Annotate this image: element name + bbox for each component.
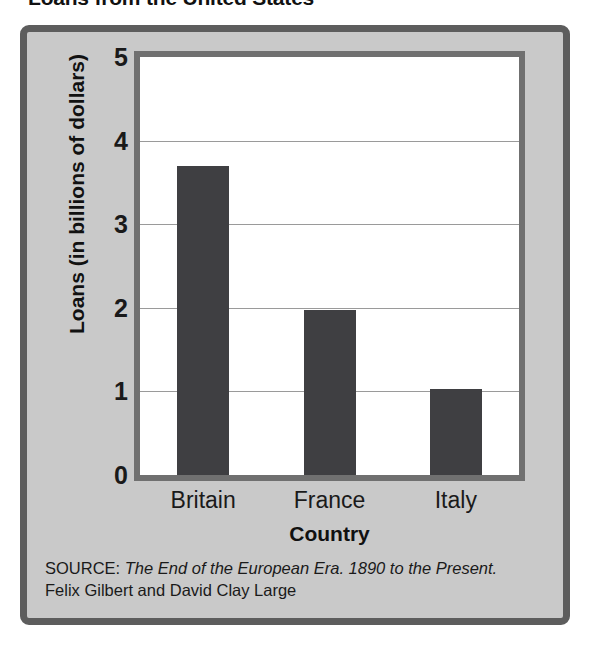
x-tick-label-britain: Britain [171,487,236,514]
source-note: SOURCE: The End of the European Era. 189… [45,557,555,602]
y-tick-label: 5 [94,43,128,72]
x-axis-tick-labels: BritainFranceItaly [134,487,525,519]
y-axis-tick-labels: 012345 [82,51,128,481]
x-axis-title: Country [134,522,525,546]
y-tick-label: 2 [94,293,128,322]
source-prefix: SOURCE: [45,559,125,577]
source-work-title: The End of the European Era. 1890 to the… [125,559,497,577]
bar-britain [177,166,229,475]
plot-inner [140,57,519,475]
x-tick-label-france: France [294,487,366,514]
y-tick-label: 4 [94,126,128,155]
bar-france [304,310,356,475]
y-tick-label: 3 [94,210,128,239]
gridline [140,141,519,142]
y-tick-label: 1 [94,377,128,406]
figure-panel: Loans (in billions of dollars) 012345 Br… [20,25,570,625]
bar-italy [430,389,482,475]
y-tick-label: 0 [94,461,128,490]
plot-area [134,51,525,481]
x-tick-label-italy: Italy [435,487,477,514]
source-authors: Felix Gilbert and David Clay Large [45,581,296,599]
